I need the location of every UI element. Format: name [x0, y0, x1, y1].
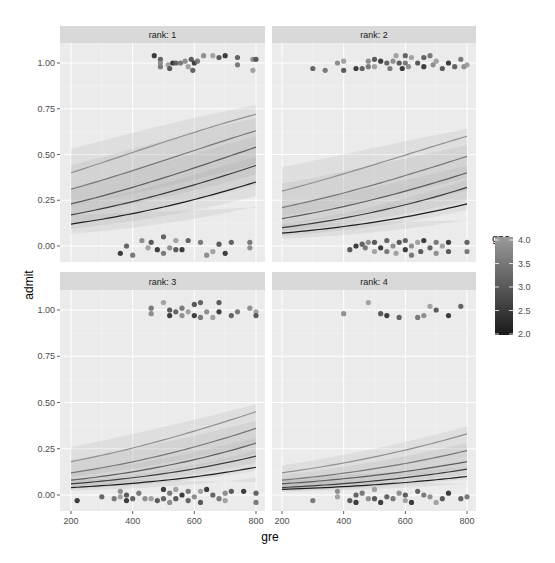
data-point	[173, 496, 178, 501]
data-point	[198, 489, 203, 494]
data-point	[366, 240, 371, 245]
data-point	[173, 247, 178, 252]
data-point	[372, 496, 377, 501]
data-point	[235, 62, 240, 67]
y-tick-label: 0.75	[37, 104, 55, 114]
data-point	[341, 59, 346, 64]
data-point	[415, 240, 420, 245]
data-point	[421, 55, 426, 60]
data-point	[366, 300, 371, 305]
data-point	[253, 57, 258, 62]
data-point	[464, 249, 469, 254]
data-point	[173, 487, 178, 492]
data-point	[210, 315, 215, 320]
x-tick-label: 600	[398, 516, 413, 526]
data-point	[397, 240, 402, 245]
facet-panel-rank-2: rank: 2	[272, 26, 476, 262]
data-point	[366, 64, 371, 69]
data-point	[216, 55, 221, 60]
data-point	[434, 240, 439, 245]
data-point	[136, 491, 141, 496]
data-point	[145, 245, 150, 250]
facet-strip-label: rank: 2	[360, 30, 388, 40]
data-point	[161, 234, 166, 239]
data-point	[440, 66, 445, 71]
x-tick-label: 200	[63, 516, 78, 526]
data-point	[440, 496, 445, 501]
data-point	[124, 492, 129, 497]
data-point	[198, 315, 203, 320]
data-point	[434, 59, 439, 64]
data-point	[384, 313, 389, 318]
data-point	[403, 498, 408, 503]
data-point	[173, 309, 178, 314]
data-point	[434, 307, 439, 312]
data-point	[372, 487, 377, 492]
y-tick-label: 0.25	[37, 444, 55, 454]
data-point	[390, 59, 395, 64]
data-point	[384, 60, 389, 65]
data-point	[446, 313, 451, 318]
data-point	[353, 500, 358, 505]
data-point	[446, 491, 451, 496]
data-point	[155, 247, 160, 252]
data-point	[323, 68, 328, 73]
data-point	[434, 251, 439, 256]
data-point	[216, 496, 221, 501]
data-point	[390, 496, 395, 501]
data-point	[216, 309, 221, 314]
data-point	[223, 491, 228, 496]
data-point	[421, 492, 426, 497]
data-point	[198, 300, 203, 305]
data-point	[372, 57, 377, 62]
data-point	[186, 64, 191, 69]
data-point	[253, 313, 258, 318]
x-tick-label: 800	[459, 516, 474, 526]
data-point	[229, 240, 234, 245]
data-point	[403, 492, 408, 497]
data-point	[192, 302, 197, 307]
data-point	[195, 59, 200, 64]
facet-strip-label: rank: 4	[360, 277, 388, 287]
data-point	[186, 498, 191, 503]
facet-strip-label: rank: 3	[149, 277, 177, 287]
data-point	[347, 247, 352, 252]
data-point	[229, 313, 234, 318]
data-point	[415, 315, 420, 320]
y-tick-label: 0.50	[37, 150, 55, 160]
data-point	[310, 498, 315, 503]
data-point	[204, 309, 209, 314]
x-tick-label: 800	[248, 516, 263, 526]
data-point	[158, 60, 163, 65]
data-point	[173, 60, 178, 65]
data-point	[253, 500, 258, 505]
facet-panel-rank-1: rank: 10.000.250.500.751.00	[37, 26, 265, 262]
data-point	[179, 306, 184, 311]
data-point	[201, 53, 206, 58]
data-point	[124, 498, 129, 503]
legend-tick-label: 3.5	[518, 259, 531, 269]
data-point	[360, 491, 365, 496]
data-point	[186, 238, 191, 243]
data-point	[446, 60, 451, 65]
data-point	[378, 59, 383, 64]
x-tick-label: 400	[336, 516, 351, 526]
legend-tick-label: 4.0	[518, 235, 531, 245]
data-point	[397, 491, 402, 496]
data-point	[360, 66, 365, 71]
data-point	[161, 300, 166, 305]
data-point	[167, 307, 172, 312]
data-point	[415, 60, 420, 65]
data-point	[118, 251, 123, 256]
data-point	[397, 60, 402, 65]
data-point	[434, 500, 439, 505]
legend-tick-label: 2.5	[518, 306, 531, 316]
data-point	[99, 494, 104, 499]
y-tick-label: 0.50	[37, 398, 55, 408]
data-point	[204, 487, 209, 492]
data-point	[152, 53, 157, 58]
data-point	[161, 496, 166, 501]
data-point	[452, 64, 457, 69]
data-point	[149, 496, 154, 501]
data-point	[149, 311, 154, 316]
